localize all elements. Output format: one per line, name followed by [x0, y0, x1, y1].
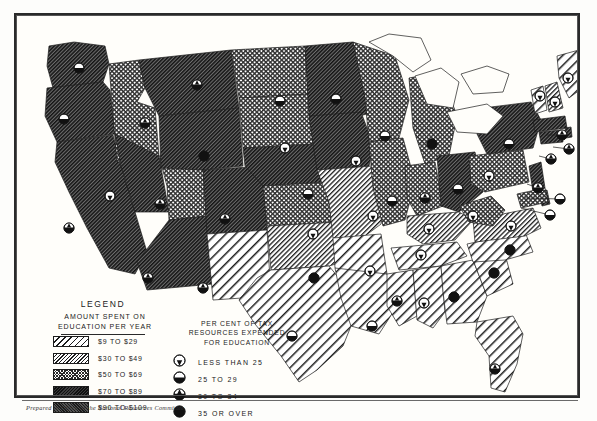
- symbol-legend-header: PER CENT OF TAX RESOURCES EXPENDED FOR E…: [173, 319, 301, 347]
- symbol-mn[interactable]: [331, 94, 341, 104]
- swatch-label: $70 TO $89: [98, 388, 143, 395]
- symbol-label: 30 TO 34: [198, 393, 238, 400]
- symbol-ok[interactable]: [309, 273, 319, 283]
- symbol-oh[interactable]: [453, 184, 463, 194]
- symbol-label: 35 OR OVER: [198, 410, 254, 417]
- symbol-legend-row: 35 OR OVER: [173, 405, 301, 421]
- state-in[interactable]: [405, 162, 443, 216]
- symbol-sd[interactable]: [280, 143, 290, 153]
- symbol-la[interactable]: [367, 321, 377, 331]
- symbol-co[interactable]: [220, 214, 230, 224]
- symbol-header-line-3: FOR EDUCATION: [173, 338, 301, 347]
- symbol-in[interactable]: [420, 193, 430, 203]
- symbol-il[interactable]: [387, 196, 397, 206]
- symbol-ca[interactable]: [64, 223, 74, 233]
- swatch-crosshatch: [53, 369, 89, 380]
- state-fl[interactable]: [475, 316, 523, 392]
- state-ia[interactable]: [309, 112, 373, 170]
- circle-mostly-white-icon: [173, 353, 186, 371]
- symbol-mi[interactable]: [427, 139, 437, 149]
- symbol-header-line-2: RESOURCES EXPENDED: [173, 328, 301, 337]
- symbol-ut[interactable]: [155, 199, 165, 209]
- symbol-ky[interactable]: [424, 224, 434, 234]
- symbol-az[interactable]: [143, 273, 153, 283]
- symbol-id[interactable]: [140, 118, 150, 128]
- symbol-md[interactable]: [545, 210, 555, 220]
- symbol-mt[interactable]: [192, 80, 202, 90]
- state-pa[interactable]: [469, 150, 529, 192]
- symbol-pa[interactable]: [484, 171, 494, 181]
- swatch-dense-diagonal-hatch: [53, 353, 89, 364]
- circle-mostly-dark-icon: [173, 387, 186, 405]
- swatch-label: $50 TO $69: [98, 371, 143, 378]
- symbol-wy[interactable]: [199, 151, 209, 161]
- symbol-or[interactable]: [59, 114, 69, 124]
- symbol-ms[interactable]: [392, 296, 402, 306]
- legend-swatch-row: $50 TO $69: [53, 367, 147, 383]
- symbol-wa[interactable]: [74, 63, 84, 73]
- map-page: LEGEND AMOUNT SPENT ON EDUCATION PER YEA…: [0, 0, 597, 421]
- state-al[interactable]: [413, 266, 445, 328]
- state-nd[interactable]: [231, 46, 309, 98]
- symbol-legend-row: LESS THAN 25: [173, 354, 301, 371]
- symbol-tn[interactable]: [416, 250, 426, 260]
- symbol-va[interactable]: [506, 221, 516, 231]
- legend-subtitle-1: AMOUNT SPENT ON: [47, 312, 163, 322]
- symbol-ar[interactable]: [365, 266, 375, 276]
- caption-rule: [22, 400, 578, 401]
- symbol-ks[interactable]: [308, 229, 318, 239]
- symbol-nm[interactable]: [198, 283, 208, 293]
- symbol-ma[interactable]: [557, 130, 567, 140]
- symbol-nd[interactable]: [275, 96, 285, 106]
- state-wy[interactable]: [159, 108, 243, 170]
- symbol-mo[interactable]: [368, 211, 378, 221]
- swatch-dark-diagonal-hatch: [53, 386, 89, 397]
- symbol-me[interactable]: [563, 73, 573, 83]
- source-caption: Prepared in Office of the National Resou…: [26, 404, 184, 411]
- symbol-wi[interactable]: [380, 131, 390, 141]
- legend-subtitle-2: EDUCATION PER YEAR: [47, 322, 163, 332]
- symbol-al[interactable]: [419, 298, 429, 308]
- symbol-nj[interactable]: [533, 183, 543, 193]
- symbol-ga[interactable]: [449, 292, 459, 302]
- legend-swatch-row: $9 TO $29: [53, 334, 147, 350]
- symbol-fl[interactable]: [490, 364, 500, 374]
- symbol-nv[interactable]: [105, 191, 115, 201]
- state-ky[interactable]: [407, 212, 473, 244]
- map-frame: LEGEND AMOUNT SPENT ON EDUCATION PER YEA…: [14, 13, 580, 398]
- symbol-label: 25 TO 29: [198, 376, 238, 383]
- legend-swatch-row: $30 TO $49: [53, 351, 147, 367]
- legend-title: LEGEND: [47, 299, 159, 309]
- symbol-header-line-1: PER CENT OF TAX: [173, 319, 301, 328]
- swatch-wide-diagonal-hatch: [53, 336, 89, 347]
- symbol-sc[interactable]: [489, 268, 499, 278]
- symbol-nh[interactable]: [550, 97, 560, 107]
- symbol-legend-row: 25 TO 29: [173, 371, 301, 388]
- symbol-ia[interactable]: [351, 156, 361, 166]
- symbol-ri[interactable]: [564, 144, 574, 154]
- symbol-ny[interactable]: [504, 139, 514, 149]
- legend-swatch-row: $70 TO $89: [53, 384, 147, 400]
- symbol-ct[interactable]: [546, 154, 556, 164]
- symbol-label: LESS THAN 25: [198, 359, 263, 366]
- state-mt[interactable]: [139, 50, 239, 116]
- symbol-list: LESS THAN 2525 TO 2930 TO 3435 OR OVER: [173, 354, 301, 421]
- circle-half-dark-icon: [173, 370, 186, 388]
- state-ms[interactable]: [387, 270, 417, 326]
- state-or[interactable]: [45, 82, 115, 142]
- symbol-legend-row: 30 TO 34: [173, 388, 301, 405]
- symbol-ne[interactable]: [303, 189, 313, 199]
- swatch-label: $9 TO $29: [98, 338, 138, 345]
- symbol-vt[interactable]: [535, 91, 545, 101]
- symbol-de[interactable]: [555, 194, 565, 204]
- swatch-label: $30 TO $49: [98, 355, 143, 362]
- symbol-legend-block: PER CENT OF TAX RESOURCES EXPENDED FOR E…: [173, 319, 301, 421]
- symbol-nc[interactable]: [505, 245, 515, 255]
- symbol-wv[interactable]: [468, 211, 478, 221]
